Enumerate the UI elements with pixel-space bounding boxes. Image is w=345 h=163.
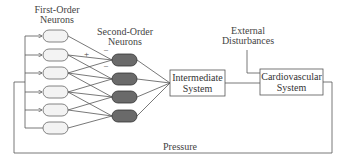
first-order-neuron [43,86,68,98]
intermediate-line2: System [170,83,225,94]
external-label-line2: Disturbances [218,36,278,46]
plus-sign: + [84,49,89,59]
minus-sign: – [104,61,108,71]
second-order-label: Second-Order Neurons [88,27,162,47]
second-order-neuron [112,54,137,66]
first-order-neuron [43,67,68,79]
first-order-label: First-Order Neurons [22,5,92,25]
external-disturbances-label: External Disturbances [218,26,278,46]
pressure-label: Pressure [150,142,210,152]
cardio-line2: System [260,82,323,93]
first-order-neuron [43,49,68,61]
intermediate-system-label: Intermediate System [170,72,225,94]
second-order-label-line2: Neurons [88,37,162,47]
first-order-label-line2: Neurons [22,15,92,25]
cardio-line1: Cardiovascular [260,71,323,82]
second-order-neuron [112,91,137,103]
intermediate-line1: Intermediate [170,72,225,83]
second-order-neuron [112,110,137,122]
first-order-neuron [43,104,68,116]
minus-sign: – [104,45,108,55]
first-order-neuron [43,122,68,134]
second-order-neuron [112,73,137,85]
cardiovascular-system-label: Cardiovascular System [260,71,323,93]
first-order-neuron [43,30,68,42]
